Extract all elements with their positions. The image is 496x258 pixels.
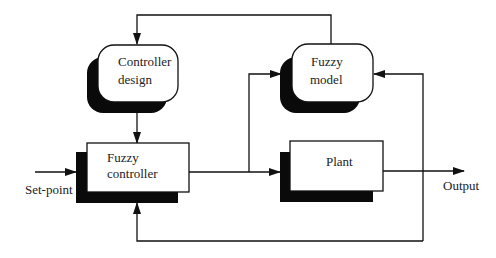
block-label-line2: controller xyxy=(107,166,158,181)
block-label-line2: model xyxy=(310,72,343,87)
block-label-line2: design xyxy=(118,72,152,87)
block-fuzzy-model: Fuzzy model xyxy=(280,44,373,113)
output-label: Output xyxy=(443,178,480,193)
block-plant: Plant xyxy=(280,141,383,202)
block-diagram: Controller design Fuzzy model Fuzzy cont… xyxy=(0,0,496,258)
block-controller-design: Controller design xyxy=(87,45,178,113)
block-label: Plant xyxy=(326,154,353,169)
connections xyxy=(35,15,464,241)
block-label-line1: Fuzzy xyxy=(107,150,139,165)
edge-feedback-to-controller xyxy=(137,203,423,241)
block-label-line1: Controller xyxy=(118,54,172,69)
edge-model-to-design xyxy=(137,15,331,44)
edge-controller-to-model xyxy=(249,74,281,172)
block-label-line1: Fuzzy xyxy=(311,54,343,69)
block-fuzzy-controller: Fuzzy controller xyxy=(76,143,189,203)
setpoint-label: Set-point xyxy=(25,182,73,197)
